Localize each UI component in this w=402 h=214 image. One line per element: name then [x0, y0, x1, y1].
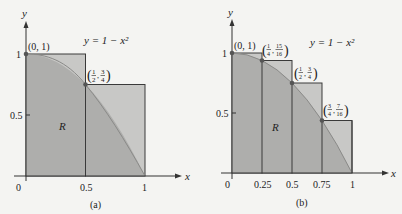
- svg-text:3: 3: [328, 103, 331, 109]
- point-b-3: [290, 81, 295, 86]
- point-0-1-a: [24, 52, 29, 57]
- svg-text:16: 16: [276, 51, 282, 57]
- panel-a: y x y = 1 − x² (0, 1) ( 1 2 , 3 4 ) R 1 …: [10, 7, 190, 211]
- svg-text:,: ,: [333, 106, 335, 115]
- svg-text:): ): [284, 43, 289, 59]
- svg-text:16: 16: [337, 111, 343, 117]
- y-arrow-icon: [230, 19, 235, 26]
- xtick-0-a: 0: [16, 182, 21, 193]
- xtick-075-b: 0.75: [313, 179, 331, 190]
- y-label-a: y: [21, 7, 27, 19]
- y-label-b: y: [227, 6, 233, 18]
- x-label-b: x: [390, 167, 396, 179]
- xtick-05-b: 0.5: [286, 179, 299, 190]
- xtick-05-a: 0.5: [80, 182, 93, 193]
- svg-text:3: 3: [308, 66, 311, 72]
- region-label-a: R: [58, 120, 66, 132]
- caption-b: (b): [296, 197, 308, 209]
- svg-text:2: 2: [299, 74, 302, 80]
- point-b-4: [320, 118, 325, 123]
- svg-text:1: 1: [92, 68, 96, 76]
- svg-text:1: 1: [299, 66, 302, 72]
- svg-text:2: 2: [92, 76, 96, 84]
- svg-text:4: 4: [267, 51, 270, 57]
- svg-text:4: 4: [101, 76, 105, 84]
- point-label-b-3: ( 1 2 , 3 4 ): [294, 66, 318, 82]
- xtick-1-a: 1: [142, 182, 147, 193]
- ytick-1-b: 1: [222, 48, 227, 59]
- function-label-b: y = 1 − x²: [309, 36, 355, 48]
- point-label-0-1-a: (0, 1): [28, 41, 50, 53]
- svg-text:,: ,: [272, 46, 274, 55]
- y-arrow-icon: [24, 21, 29, 28]
- svg-text:7: 7: [337, 103, 340, 109]
- point-label-b-1: (0, 1): [234, 40, 256, 52]
- svg-text:,: ,: [97, 71, 99, 80]
- svg-text:,: ,: [304, 69, 306, 78]
- point-label-b-2: ( 1 4 , 15 16 ): [262, 43, 289, 59]
- xtick-1-b: 1: [350, 179, 355, 190]
- svg-text:4: 4: [328, 111, 331, 117]
- svg-text:1: 1: [267, 43, 270, 49]
- svg-text:15: 15: [276, 43, 282, 49]
- figure: y x y = 1 − x² (0, 1) ( 1 2 , 3 4 ) R 1 …: [0, 0, 402, 214]
- x-label-a: x: [184, 170, 190, 182]
- ytick-1-a: 1: [16, 49, 21, 60]
- point-label-half-a: ( 1 2 , 3 4 ): [87, 68, 111, 84]
- caption-a: (a): [90, 199, 101, 211]
- svg-text:): ): [344, 103, 349, 119]
- point-label-b-4: ( 3 4 , 7 16 ): [323, 103, 349, 119]
- svg-text:): ): [313, 66, 318, 82]
- svg-text:): ): [106, 68, 111, 84]
- point-b-1: [230, 51, 235, 56]
- x-arrow-icon: [175, 174, 182, 179]
- panel-b: y x y = 1 − x² (0, 1) ( 1 4 , 15 16 ) ( …: [216, 6, 396, 209]
- ytick-05-a: 0.5: [10, 110, 23, 121]
- svg-text:3: 3: [101, 68, 105, 76]
- point-b-2: [260, 58, 265, 63]
- ytick-05-b: 0.5: [216, 108, 229, 119]
- xtick-025-b: 0.25: [254, 179, 272, 190]
- x-arrow-icon: [382, 171, 389, 176]
- function-label-a: y = 1 − x²: [83, 34, 129, 46]
- svg-text:4: 4: [308, 74, 311, 80]
- xtick-0-b: 0: [225, 179, 230, 190]
- region-label-b: R: [271, 121, 279, 133]
